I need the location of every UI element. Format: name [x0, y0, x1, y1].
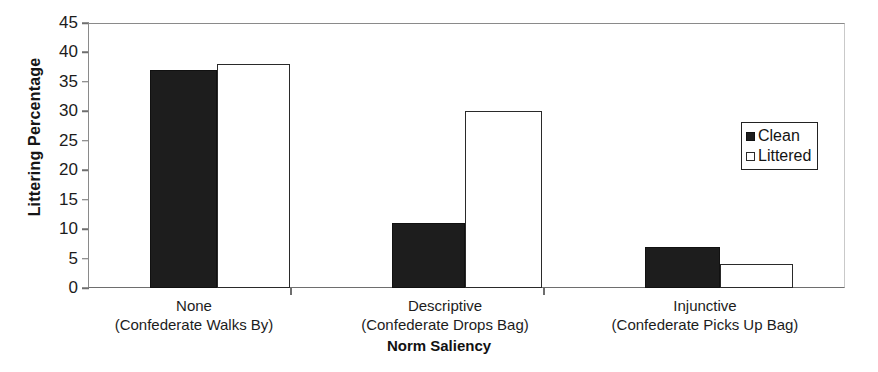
bar-injunctive-littered [720, 264, 793, 288]
legend-item-littered: Littered [746, 146, 811, 166]
bar-injunctive-clean [645, 247, 720, 288]
y-tick-label-30: 30 [59, 101, 78, 121]
bar-none-littered [217, 64, 290, 288]
y-tick-label-25: 25 [59, 131, 78, 151]
filled-square-icon [746, 132, 755, 141]
y-tick-label-20: 20 [59, 160, 78, 180]
x-tick-mark-2 [543, 288, 545, 295]
x-label-injunctive-line2: (Confederate Picks Up Bag) [570, 315, 840, 334]
y-tick-label-40: 40 [59, 42, 78, 62]
x-tick-mark-1 [290, 288, 292, 295]
bar-descriptive-clean [392, 223, 465, 288]
y-tick-label-45: 45 [59, 13, 78, 33]
legend-label-clean: Clean [758, 126, 800, 146]
x-label-none: None (Confederate Walks By) [64, 296, 324, 334]
y-tick-label-0: 0 [69, 278, 78, 298]
legend-label-littered: Littered [758, 146, 811, 166]
legend: Clean Littered [741, 122, 818, 170]
bar-none-clean [150, 70, 217, 288]
y-tick-label-5: 5 [69, 249, 78, 269]
y-tick-label-10: 10 [59, 219, 78, 239]
bar-chart: Littering Percentage 45 40 35 30 25 20 1… [0, 0, 878, 372]
x-axis-title: Norm Saliency [0, 337, 878, 354]
y-tick-label-35: 35 [59, 72, 78, 92]
bar-descriptive-littered [465, 111, 542, 288]
x-label-none-line2: (Confederate Walks By) [64, 315, 324, 334]
x-label-descriptive-line1: Descriptive [408, 297, 482, 314]
y-axis: 45 40 35 30 25 20 15 10 5 0 [0, 0, 88, 312]
x-label-injunctive-line1: Injunctive [673, 297, 736, 314]
bars-layer [88, 23, 845, 288]
x-label-none-line1: None [176, 297, 212, 314]
x-label-descriptive-line2: (Confederate Drops Bag) [320, 315, 570, 334]
y-tick-label-15: 15 [59, 190, 78, 210]
x-label-descriptive: Descriptive (Confederate Drops Bag) [320, 296, 570, 334]
open-square-icon [746, 152, 755, 161]
legend-item-clean: Clean [746, 126, 811, 146]
x-label-injunctive: Injunctive (Confederate Picks Up Bag) [570, 296, 840, 334]
